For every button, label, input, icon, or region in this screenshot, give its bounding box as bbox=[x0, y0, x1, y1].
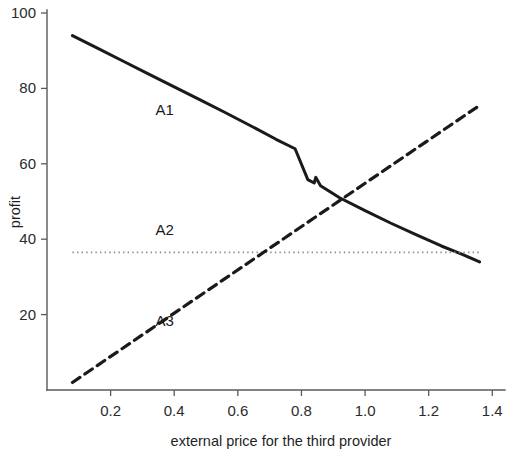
y-tick-label-60: 60 bbox=[19, 155, 36, 172]
series-line-A1 bbox=[72, 36, 479, 262]
x-axis-ticks bbox=[111, 390, 493, 396]
series-lines bbox=[72, 36, 479, 383]
y-axis-title: profit bbox=[7, 196, 23, 228]
y-tick-label-40: 40 bbox=[19, 230, 36, 247]
x-axis-title: external price for the third provider bbox=[171, 433, 392, 449]
y-tick-label-80: 80 bbox=[19, 79, 36, 96]
x-tick-label-0.4: 0.4 bbox=[164, 402, 185, 419]
series-annotations: A1A2A3 bbox=[156, 101, 174, 329]
x-axis-tick-labels: 0.20.40.60.81.01.21.4 bbox=[100, 402, 503, 419]
series-label-A2: A2 bbox=[156, 221, 174, 238]
y-axis-ticks bbox=[41, 13, 47, 315]
series-line-A3 bbox=[72, 105, 479, 382]
chart-figure: 20406080100 0.20.40.60.81.01.21.4 A1A2A3… bbox=[0, 0, 522, 453]
x-tick-label-0.2: 0.2 bbox=[100, 402, 121, 419]
y-tick-label-100: 100 bbox=[11, 4, 36, 21]
x-tick-label-0.6: 0.6 bbox=[227, 402, 248, 419]
profit-vs-external-price-chart: 20406080100 0.20.40.60.81.01.21.4 A1A2A3… bbox=[0, 0, 522, 453]
series-label-A3: A3 bbox=[156, 312, 174, 329]
y-axis-tick-labels: 20406080100 bbox=[11, 4, 36, 323]
x-tick-label-0.8: 0.8 bbox=[291, 402, 312, 419]
x-tick-label-1.0: 1.0 bbox=[355, 402, 376, 419]
series-label-A1: A1 bbox=[156, 101, 174, 118]
y-tick-label-20: 20 bbox=[19, 306, 36, 323]
x-tick-label-1.4: 1.4 bbox=[482, 402, 503, 419]
x-tick-label-1.2: 1.2 bbox=[418, 402, 439, 419]
